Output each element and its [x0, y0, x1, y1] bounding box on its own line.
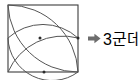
intersection-point-center [39, 37, 42, 40]
right-arrow-icon [88, 33, 101, 44]
annotation-text: 3군데 [103, 26, 138, 50]
annotation-group: 3군데 [88, 26, 138, 50]
intersection-point-bottom-edge [43, 71, 46, 74]
petal-lower-left-arc-a [8, 38, 78, 80]
intersection-point-right-edge [77, 37, 80, 40]
petal-lower-left-arc-c [8, 36, 78, 72]
figure-container: 3군데 [0, 0, 138, 80]
geometry-diagram [0, 0, 90, 80]
